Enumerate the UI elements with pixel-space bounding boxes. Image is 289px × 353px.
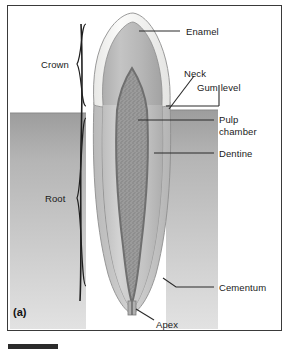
leader-neck	[169, 76, 194, 109]
label-apex: Apex	[156, 319, 178, 330]
leader-apex	[136, 309, 154, 320]
label-pulp-chamber-line2: chamber	[219, 126, 257, 137]
apex-opening	[128, 301, 136, 315]
figure-panel: Enamel Crown Neck Gum level Pulp chamber…	[0, 0, 289, 353]
label-gum-level: Gum level	[197, 82, 241, 93]
panel-label: (a)	[13, 306, 26, 318]
label-root: Root	[45, 193, 65, 204]
label-pulp-chamber: Pulp chamber	[219, 114, 257, 137]
label-pulp-chamber-line1: Pulp	[219, 114, 238, 125]
label-neck: Neck	[184, 68, 206, 79]
label-cementum: Cementum	[219, 282, 266, 293]
figure-frame: Enamel Crown Neck Gum level Pulp chamber…	[7, 5, 282, 331]
label-crown: Crown	[41, 59, 69, 70]
tooth-cross-section-illustration	[8, 6, 280, 329]
label-dentine: Dentine	[219, 148, 252, 159]
bottom-rule-bar	[8, 344, 58, 349]
label-enamel: Enamel	[186, 26, 219, 37]
